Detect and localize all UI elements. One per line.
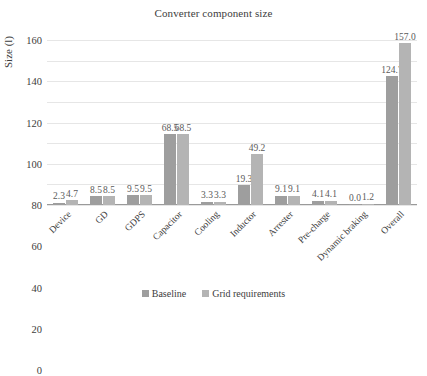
bar-value-label: 0.0: [349, 194, 361, 204]
y-axis-tick: 80: [32, 200, 43, 211]
bar-group: 19.349.2: [232, 40, 269, 205]
bar-group: 9.59.5: [121, 40, 158, 205]
bar[interactable]: 8.5: [103, 196, 115, 205]
legend-label: Baseline: [152, 288, 186, 299]
bar[interactable]: 0.0: [349, 204, 361, 205]
bar[interactable]: 9.5: [140, 195, 152, 205]
bar[interactable]: 9.1: [275, 196, 287, 205]
bar[interactable]: 68.5: [164, 134, 176, 205]
bar-group: 2.34.7: [47, 40, 84, 205]
bar[interactable]: 4.1: [312, 201, 324, 205]
bar-value-label: 8.5: [90, 186, 102, 196]
legend-swatch-icon: [202, 290, 209, 297]
bar-value-label: 4.7: [66, 190, 78, 200]
bar[interactable]: 2.3: [53, 203, 65, 205]
bar-group: 4.14.1: [306, 40, 343, 205]
bar[interactable]: 4.1: [325, 201, 337, 205]
bar-value-label: 1.2: [362, 193, 374, 203]
bar-group: 124.7157.0: [380, 40, 417, 205]
bar-value-label: 3.3: [201, 191, 213, 201]
bar-groups: 2.34.78.58.59.59.568.568.53.33.319.349.2…: [47, 40, 417, 205]
bar-value-label: 9.1: [275, 185, 287, 195]
bar[interactable]: 3.3: [214, 202, 226, 205]
bar[interactable]: 8.5: [90, 196, 102, 205]
bar-value-label: 49.2: [249, 144, 266, 154]
bar-value-label: 9.5: [127, 185, 139, 195]
legend-item[interactable]: Grid requirements: [202, 288, 285, 299]
bar-value-label: 2.3: [53, 192, 65, 202]
y-axis-tick: 140: [26, 76, 42, 87]
legend-swatch-icon: [142, 290, 149, 297]
bar-value-label: 4.1: [325, 190, 337, 200]
y-axis-title: Size (l): [2, 12, 14, 92]
bar[interactable]: 68.5: [177, 134, 189, 205]
bar[interactable]: 3.3: [201, 202, 213, 205]
bar-value-label: 3.3: [214, 191, 226, 201]
legend-item[interactable]: Baseline: [142, 288, 186, 299]
bar[interactable]: 9.1: [288, 196, 300, 205]
bar-value-label: 4.1: [312, 190, 324, 200]
bar-group: 0.01.2: [343, 40, 380, 205]
gridline: 0: [47, 205, 417, 206]
bar[interactable]: 157.0: [399, 43, 411, 205]
bar-value-label: 9.5: [140, 185, 152, 195]
legend-label: Grid requirements: [212, 288, 285, 299]
y-axis-tick: 100: [26, 158, 42, 169]
bar-group: 9.19.1: [269, 40, 306, 205]
bar-group: 3.33.3: [195, 40, 232, 205]
bar-value-label: 157.0: [394, 33, 415, 43]
bar[interactable]: 19.3: [238, 185, 250, 205]
bar-value-label: 9.1: [288, 185, 300, 195]
bar-group: 8.58.5: [84, 40, 121, 205]
bar-value-label: 19.3: [236, 175, 253, 185]
bar[interactable]: 1.2: [362, 204, 374, 205]
bar[interactable]: 9.5: [127, 195, 139, 205]
bar-value-label: 68.5: [175, 124, 192, 134]
bar[interactable]: 49.2: [251, 154, 263, 205]
bar[interactable]: 4.7: [66, 200, 78, 205]
chart-legend: BaselineGrid requirements: [0, 288, 427, 299]
chart-title: Converter component size: [0, 7, 427, 19]
bar[interactable]: 124.7: [386, 76, 398, 205]
y-axis-tick: 0: [37, 365, 42, 376]
y-axis-tick: 160: [26, 35, 42, 46]
y-axis-tick: 120: [26, 117, 42, 128]
plot-area: 020406080100120140160 2.34.78.58.59.59.5…: [47, 40, 417, 205]
bar-group: 68.568.5: [158, 40, 195, 205]
bar-value-label: 8.5: [103, 186, 115, 196]
